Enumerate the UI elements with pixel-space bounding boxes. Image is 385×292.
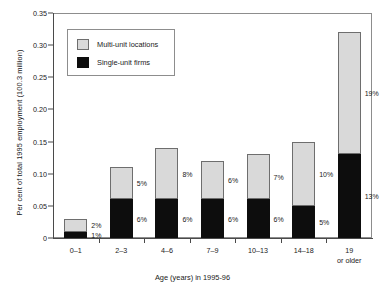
bar-value-label-multi-unit: 6%: [228, 177, 238, 184]
y-tick-mark: [48, 109, 53, 110]
y-tick-label: 0.15: [0, 137, 53, 146]
bar-value-label-multi-unit: 8%: [182, 170, 192, 177]
bar-value-label-multi-unit: 19%: [365, 90, 379, 97]
y-tick-label: 0: [0, 234, 53, 243]
bar-segment-single-unit[interactable]: [201, 199, 224, 238]
x-tick-mark: [235, 238, 236, 243]
bar-segment-single-unit[interactable]: [338, 154, 361, 238]
bar-segment-multi-unit[interactable]: [64, 219, 87, 232]
bar-value-label-single-unit: 6%: [182, 215, 192, 222]
bar-value-label-multi-unit: 5%: [137, 180, 147, 187]
bar-value-label-single-unit: 6%: [137, 215, 147, 222]
bar-segment-multi-unit[interactable]: [247, 154, 270, 199]
y-tick-label: 0.35: [0, 9, 53, 18]
bar-segment-multi-unit[interactable]: [292, 142, 315, 206]
bar-segment-single-unit[interactable]: [292, 206, 315, 238]
bar-segment-single-unit[interactable]: [110, 199, 133, 238]
bar-stack[interactable]: [247, 154, 270, 238]
y-tick-mark: [48, 173, 53, 174]
bar-value-label-multi-unit: 7%: [274, 173, 284, 180]
bar-value-label-multi-unit: 10%: [319, 170, 333, 177]
y-tick-mark: [48, 238, 53, 239]
legend-swatch-single-unit-icon: [77, 57, 89, 68]
stacked-bar-chart: Per cent of total 1995 employment (100.3…: [0, 0, 385, 292]
y-tick-label: 0.30: [0, 41, 53, 50]
y-tick-mark: [48, 141, 53, 142]
bar-stack[interactable]: [338, 32, 361, 238]
legend-item-single-unit: Single-unit firms: [77, 57, 150, 68]
x-tick-label: 19or older: [319, 246, 379, 265]
x-tick-mark: [190, 238, 191, 243]
bar-stack[interactable]: [292, 142, 315, 238]
y-tick-label: 0.20: [0, 105, 53, 114]
bar-value-label-multi-unit: 2%: [91, 222, 101, 229]
bar-stack[interactable]: [201, 161, 224, 238]
y-tick-mark: [48, 45, 53, 46]
bar-value-label-single-unit: 6%: [228, 215, 238, 222]
legend-item-multi-unit: Multi-unit locations: [77, 39, 158, 50]
bar-value-label-single-unit: 1%: [91, 231, 101, 238]
legend-label-multi-unit: Multi-unit locations: [97, 40, 158, 49]
x-tick-mark: [144, 238, 145, 243]
bar-segment-single-unit[interactable]: [247, 199, 270, 238]
bar-stack[interactable]: [155, 148, 178, 238]
bar-value-label-single-unit: 5%: [319, 218, 329, 225]
x-axis-title: Age (years) in 1995-96: [0, 273, 385, 282]
bar-segment-multi-unit[interactable]: [338, 32, 361, 154]
y-tick-mark: [48, 77, 53, 78]
x-tick-mark: [99, 238, 100, 243]
bar-segment-single-unit[interactable]: [155, 199, 178, 238]
y-tick-label: 0.25: [0, 73, 53, 82]
bar-value-label-single-unit: 13%: [365, 193, 379, 200]
y-axis-line: [53, 13, 54, 239]
legend-label-single-unit: Single-unit firms: [97, 58, 150, 67]
y-tick-mark: [48, 13, 53, 14]
bar-stack[interactable]: [64, 219, 87, 238]
bar-segment-single-unit[interactable]: [64, 232, 87, 238]
chart-legend: Multi-unit locations Single-unit firms: [67, 29, 175, 76]
bar-segment-multi-unit[interactable]: [155, 148, 178, 199]
bar-value-label-single-unit: 6%: [274, 215, 284, 222]
bar-stack[interactable]: [110, 167, 133, 238]
bar-segment-multi-unit[interactable]: [110, 167, 133, 199]
y-tick-mark: [48, 205, 53, 206]
y-tick-label: 0.10: [0, 169, 53, 178]
x-tick-mark: [326, 238, 327, 243]
x-tick-mark: [281, 238, 282, 243]
legend-swatch-multi-unit-icon: [77, 39, 89, 50]
bar-segment-multi-unit[interactable]: [201, 161, 224, 200]
y-tick-label: 0.05: [0, 201, 53, 210]
